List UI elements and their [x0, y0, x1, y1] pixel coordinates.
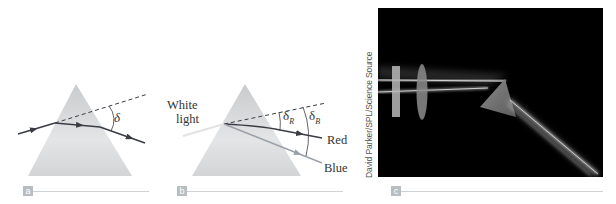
panel-a-diagram: [18, 84, 148, 176]
panel-label-b: b: [177, 186, 187, 196]
panel-rule-c: [401, 191, 603, 192]
dispersed-beam: [508, 105, 590, 175]
blue-label: Blue: [324, 161, 348, 175]
white-light-label-line2: light: [176, 112, 199, 126]
photo-content-svg: [378, 8, 603, 177]
prism-photograph: [378, 8, 603, 177]
prism-b: [192, 84, 301, 176]
lens: [417, 64, 428, 120]
panel-b-diagram: [183, 84, 326, 176]
delta-b-symbol: δB: [309, 109, 320, 129]
white-light-label-line1: White: [167, 98, 198, 112]
red-label: Red: [327, 133, 347, 147]
panel-label-c: c: [391, 186, 401, 196]
figure: δ White light δR δB Red Blue: [0, 0, 616, 204]
prism-a: [28, 84, 132, 176]
incident-ray: [18, 123, 55, 134]
panel-rule-b: [187, 191, 343, 192]
panel-label-a: a: [23, 186, 33, 196]
dispersed-beam-core: [510, 100, 598, 174]
delta-r-subscript: R: [289, 117, 294, 126]
delta-b-arc: [303, 107, 309, 156]
delta-symbol: δ: [114, 111, 120, 125]
filter-plate: [392, 66, 400, 117]
delta-b-subscript: B: [315, 117, 320, 126]
delta-r-arc: [279, 112, 280, 131]
photo-credit: David Parker/SPL/Science Source: [364, 52, 374, 178]
delta-r-symbol: δR: [283, 109, 294, 129]
panel-rule-a: [33, 191, 149, 192]
